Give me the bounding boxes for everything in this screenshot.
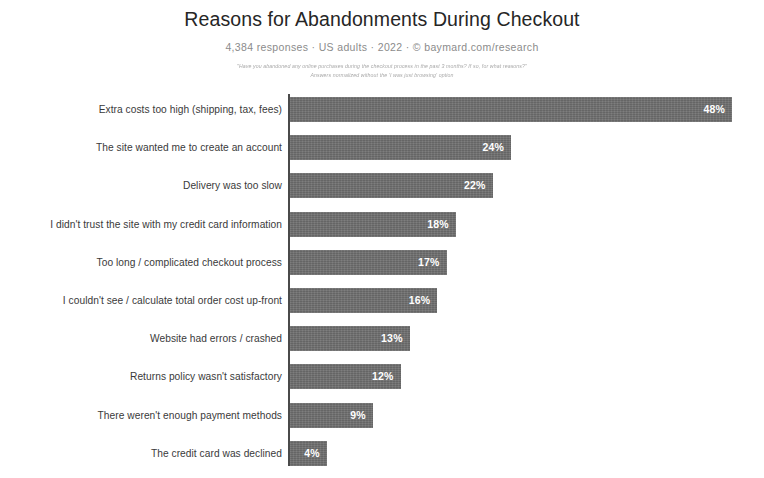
bar-fill: 4% bbox=[290, 441, 327, 466]
bar-fill: 48% bbox=[290, 97, 732, 122]
bar-category-label: Extra costs too high (shipping, tax, fee… bbox=[99, 97, 282, 122]
bar-fill: 17% bbox=[290, 250, 447, 275]
bar-value-label: 24% bbox=[482, 135, 504, 160]
bar-value-label: 16% bbox=[409, 288, 431, 313]
bar-fill: 9% bbox=[290, 403, 373, 428]
bar-value-label: 18% bbox=[427, 212, 449, 237]
bar-fill: 13% bbox=[290, 326, 410, 351]
page-title: Reasons for Abandonments During Checkout bbox=[0, 6, 764, 32]
bar-category-label: I didn't trust the site with my credit c… bbox=[50, 212, 282, 237]
bar-category-label: There weren't enough payment methods bbox=[98, 403, 282, 428]
bar-value-label: 9% bbox=[350, 403, 366, 428]
bar-track: 24% bbox=[290, 135, 511, 160]
bar-row: Too long / complicated checkout process1… bbox=[0, 250, 764, 275]
bar-fill: 18% bbox=[290, 212, 456, 237]
bar-track: 48% bbox=[290, 97, 732, 122]
bar-row: The credit card was declined4% bbox=[0, 441, 764, 466]
bar-value-label: 22% bbox=[464, 173, 486, 198]
bar-track: 13% bbox=[290, 326, 410, 351]
chart-subtitle: 4,384 responses · US adults · 2022 · © b… bbox=[0, 41, 764, 55]
bar-category-label: The site wanted me to create an account bbox=[96, 135, 282, 160]
chart-footnote-question: "Have you abandoned any online purchases… bbox=[0, 62, 764, 71]
bar-fill: 24% bbox=[290, 135, 511, 160]
bar-category-label: The credit card was declined bbox=[151, 441, 282, 466]
bar-track: 4% bbox=[290, 441, 327, 466]
bar-category-label: Website had errors / crashed bbox=[150, 326, 282, 351]
bar-value-label: 13% bbox=[381, 326, 403, 351]
bar-row: Returns policy wasn't satisfactory12% bbox=[0, 364, 764, 389]
bar-row: Website had errors / crashed13% bbox=[0, 326, 764, 351]
bar-row: Extra costs too high (shipping, tax, fee… bbox=[0, 97, 764, 122]
chart-footnote: "Have you abandoned any online purchases… bbox=[0, 62, 764, 80]
bar-value-label: 12% bbox=[372, 364, 394, 389]
bar-category-label: I couldn't see / calculate total order c… bbox=[63, 288, 282, 313]
bar-value-label: 4% bbox=[304, 441, 320, 466]
bar-value-label: 48% bbox=[703, 97, 725, 122]
bar-track: 12% bbox=[290, 364, 401, 389]
bar-track: 18% bbox=[290, 212, 456, 237]
bar-fill: 22% bbox=[290, 173, 493, 198]
bar-track: 16% bbox=[290, 288, 437, 313]
bar-row: I didn't trust the site with my credit c… bbox=[0, 212, 764, 237]
bar-track: 22% bbox=[290, 173, 493, 198]
bar-track: 17% bbox=[290, 250, 447, 275]
bar-value-label: 17% bbox=[418, 250, 440, 275]
bar-category-label: Too long / complicated checkout process bbox=[97, 250, 282, 275]
bar-category-label: Delivery was too slow bbox=[183, 173, 282, 198]
bar-row: Delivery was too slow22% bbox=[0, 173, 764, 198]
bar-fill: 16% bbox=[290, 288, 437, 313]
bar-row: There weren't enough payment methods9% bbox=[0, 403, 764, 428]
bar-fill: 12% bbox=[290, 364, 401, 389]
chart-footnote-normalization: Answers normalized without the 'I was ju… bbox=[0, 71, 764, 80]
bar-row: I couldn't see / calculate total order c… bbox=[0, 288, 764, 313]
bar-chart-plot-area: Extra costs too high (shipping, tax, fee… bbox=[0, 88, 764, 478]
bar-row: The site wanted me to create an account2… bbox=[0, 135, 764, 160]
bar-track: 9% bbox=[290, 403, 373, 428]
chart-header: Reasons for Abandonments During Checkout… bbox=[0, 0, 764, 80]
bar-category-label: Returns policy wasn't satisfactory bbox=[130, 364, 282, 389]
